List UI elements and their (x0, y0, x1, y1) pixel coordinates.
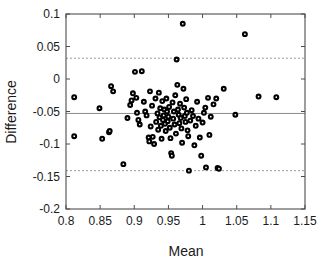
data-point-marker (128, 103, 132, 107)
data-point-marker (175, 58, 179, 62)
data-point-marker (176, 108, 180, 112)
x-tick-label: 1 (199, 214, 206, 228)
data-point-marker (169, 136, 173, 140)
data-point-marker (154, 97, 158, 101)
data-point-marker (186, 128, 190, 132)
scatter-plot-svg: Difference Mean 0.80.850.90.9511.051.11.… (0, 0, 334, 264)
data-point-marker (184, 120, 188, 124)
data-point-marker (157, 91, 161, 95)
data-point-marker (135, 111, 139, 115)
data-point-marker (171, 117, 175, 121)
data-point-marker (212, 102, 216, 106)
data-point-marker (187, 169, 191, 173)
data-point-marker (274, 95, 278, 99)
data-point-marker (130, 99, 134, 103)
data-point-markers-group (72, 22, 278, 173)
data-point-marker (180, 141, 184, 145)
y-axis-title: Difference (3, 80, 19, 144)
data-point-marker (202, 111, 206, 115)
y-tick-labels-group: 0.10.050-0.05-0.1-0.15-0.2 (33, 7, 61, 216)
data-point-marker (180, 126, 184, 130)
data-point-marker (72, 95, 76, 99)
data-point-marker (134, 96, 138, 100)
data-point-marker (217, 167, 221, 171)
data-point-marker (174, 132, 178, 136)
data-point-marker (173, 123, 177, 127)
y-tick-label: 0.05 (37, 40, 61, 54)
data-point-marker (171, 101, 175, 105)
y-tick-label: 0.1 (43, 7, 60, 21)
data-point-marker (149, 125, 153, 129)
y-tick-label: -0.2 (39, 202, 60, 216)
x-tick-label: 1.1 (263, 214, 280, 228)
data-point-marker (100, 137, 104, 141)
x-tick-label: 0.9 (126, 214, 143, 228)
x-tick-label: 0.8 (58, 214, 75, 228)
y-tick-label: -0.1 (39, 137, 60, 151)
data-point-marker (186, 134, 190, 138)
data-point-marker (195, 100, 199, 104)
data-point-marker (145, 114, 149, 118)
data-point-marker (126, 116, 130, 120)
x-tick-label: 0.95 (157, 214, 181, 228)
data-point-marker (167, 115, 171, 119)
data-point-marker (178, 102, 182, 106)
data-point-marker (121, 162, 125, 166)
data-point-marker (182, 87, 186, 91)
data-point-marker (191, 114, 195, 118)
data-point-marker (133, 70, 137, 74)
data-point-marker (204, 166, 208, 170)
data-point-marker (138, 123, 142, 127)
data-point-marker (243, 32, 247, 36)
data-point-marker (175, 83, 179, 87)
data-point-marker (198, 136, 202, 140)
y-tick-label: 0 (53, 72, 60, 86)
data-point-marker (154, 120, 158, 124)
data-point-marker (166, 119, 170, 123)
data-point-marker (148, 89, 152, 93)
data-point-marker (111, 89, 115, 93)
data-point-marker (233, 113, 237, 117)
data-point-marker (192, 143, 196, 147)
data-point-marker (173, 93, 177, 97)
data-point-marker (160, 137, 164, 141)
x-tick-label: 0.85 (88, 214, 112, 228)
data-point-marker (257, 95, 261, 99)
data-point-marker (185, 111, 189, 115)
data-point-marker (209, 115, 213, 119)
data-point-marker (167, 105, 171, 109)
data-point-marker (72, 134, 76, 138)
x-tick-labels-group: 0.80.850.90.9511.051.11.15 (58, 214, 317, 228)
x-axis-title: Mean (168, 243, 203, 259)
data-point-marker (194, 124, 198, 128)
data-point-marker (160, 99, 164, 103)
data-point-marker (208, 133, 212, 137)
data-point-marker (168, 126, 172, 130)
y-tick-label: -0.15 (33, 170, 61, 184)
data-point-marker (182, 106, 186, 110)
data-point-marker (177, 121, 181, 125)
data-point-marker (184, 97, 188, 101)
data-point-marker (98, 106, 102, 110)
data-point-marker (203, 106, 207, 110)
data-point-marker (214, 97, 218, 101)
data-point-marker (131, 91, 135, 95)
data-point-marker (151, 135, 155, 139)
data-point-marker (188, 119, 192, 123)
data-point-marker (152, 142, 156, 146)
data-point-marker (181, 22, 185, 26)
data-point-marker (162, 114, 166, 118)
data-point-marker (190, 108, 194, 112)
x-tick-label: 1.05 (225, 214, 249, 228)
data-point-marker (201, 121, 205, 125)
data-point-marker (164, 97, 168, 101)
data-point-marker (109, 84, 113, 88)
x-tick-label: 1.15 (293, 214, 317, 228)
data-point-marker (222, 87, 226, 91)
data-point-marker (199, 154, 203, 158)
data-point-marker (108, 129, 112, 133)
data-point-marker (165, 110, 169, 114)
data-point-marker (142, 100, 146, 104)
data-point-marker (147, 140, 151, 144)
chart-figure: Difference Mean 0.80.850.90.9511.051.11.… (0, 0, 334, 264)
